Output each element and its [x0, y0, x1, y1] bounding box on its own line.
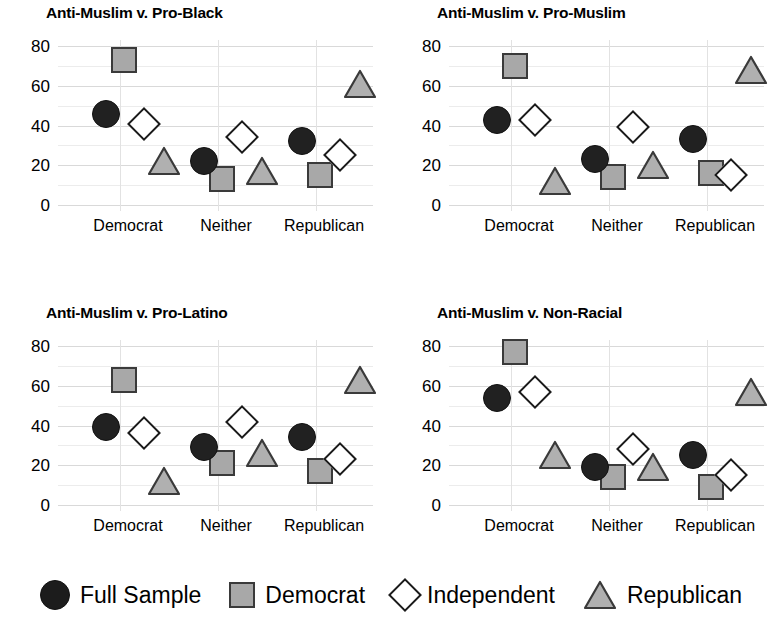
- gridline-minor: [449, 66, 764, 67]
- y-axis-tick-label: 20: [31, 157, 50, 174]
- y-axis-tick-label: 80: [31, 38, 50, 55]
- chart-panel: Anti-Muslim v. Non-Racial020406080Democr…: [391, 300, 782, 580]
- gridline-minor: [58, 485, 373, 486]
- marker-independent-diamond: [225, 405, 259, 439]
- gridline-major: [58, 205, 373, 206]
- marker-full-sample-circle: [679, 125, 707, 153]
- legend-label: Democrat: [265, 582, 365, 609]
- gridline-major: [58, 346, 373, 347]
- x-axis-tick-label: Neither: [200, 518, 252, 534]
- y-axis-tick-label: 60: [422, 377, 441, 394]
- gridline-minor: [449, 445, 764, 446]
- x-axis-tick-label: Republican: [284, 218, 364, 234]
- y-axis-tick-label: 80: [422, 38, 441, 55]
- y-axis-tick-label: 40: [422, 117, 441, 134]
- y-axis-tick-label: 80: [422, 338, 441, 355]
- chart-panel: Anti-Muslim v. Pro-Latino020406080Democr…: [0, 300, 391, 580]
- panel-title: Anti-Muslim v. Pro-Latino: [46, 304, 228, 322]
- marker-democrat-square: [502, 339, 528, 365]
- x-axis-tick-label: Neither: [200, 218, 252, 234]
- gridline-major: [58, 386, 373, 387]
- panel-title: Anti-Muslim v. Pro-Muslim: [437, 4, 625, 22]
- x-axis-tick-label: Republican: [284, 518, 364, 534]
- gridline-major: [449, 505, 764, 506]
- y-axis-tick-label: 20: [31, 457, 50, 474]
- gridline-minor: [58, 406, 373, 407]
- marker-full-sample-circle: [483, 384, 511, 412]
- gridline-major: [449, 346, 764, 347]
- marker-republican-triangle: [343, 365, 377, 395]
- marker-republican-triangle: [734, 55, 768, 85]
- y-axis-tick-label: 40: [31, 117, 50, 134]
- category-gridline: [120, 340, 121, 511]
- plot-area: 020406080DemocratNeitherRepublican: [58, 46, 373, 205]
- legend-item: Democrat: [229, 582, 365, 609]
- gridline-major: [449, 426, 764, 427]
- panel-title: Anti-Muslim v. Pro-Black: [46, 4, 223, 22]
- marker-independent-diamond: [127, 107, 161, 141]
- gridline-major: [58, 505, 373, 506]
- panel-title: Anti-Muslim v. Non-Racial: [437, 304, 622, 322]
- marker-republican-triangle: [538, 166, 572, 196]
- y-axis-tick-label: 60: [31, 377, 50, 394]
- marker-full-sample-circle: [581, 145, 609, 173]
- y-axis-tick-label: 80: [31, 338, 50, 355]
- marker-republican-triangle: [538, 440, 572, 470]
- legend-label: Republican: [627, 582, 742, 609]
- x-axis-tick-label: Democrat: [484, 518, 553, 534]
- y-axis-tick-label: 0: [41, 497, 50, 514]
- marker-republican-triangle: [636, 150, 670, 180]
- marker-independent-diamond: [518, 375, 552, 409]
- gridline-major: [449, 86, 764, 87]
- marker-independent-diamond: [616, 111, 650, 145]
- x-axis-tick-label: Democrat: [93, 218, 162, 234]
- category-gridline: [316, 340, 317, 511]
- x-axis-tick-label: Neither: [591, 518, 643, 534]
- plot-area: 020406080DemocratNeitherRepublican: [58, 346, 373, 505]
- gridline-major: [58, 46, 373, 47]
- legend-circle-icon: [40, 580, 70, 610]
- marker-republican-triangle: [147, 146, 181, 176]
- y-axis-tick-label: 20: [422, 457, 441, 474]
- chart-legend: Full SampleDemocratIndependentRepublican: [0, 565, 782, 625]
- marker-full-sample-circle: [190, 147, 218, 175]
- y-axis-tick-label: 40: [31, 417, 50, 434]
- y-axis-tick-label: 0: [41, 197, 50, 214]
- marker-full-sample-circle: [92, 413, 120, 441]
- gridline-minor: [58, 66, 373, 67]
- gridline-major: [449, 46, 764, 47]
- legend-diamond-icon: [388, 578, 422, 612]
- chart-figure: Anti-Muslim v. Pro-Black020406080Democra…: [0, 0, 782, 625]
- marker-democrat-square: [111, 367, 137, 393]
- gridline-minor: [58, 145, 373, 146]
- marker-full-sample-circle: [288, 423, 316, 451]
- gridline-minor: [449, 145, 764, 146]
- marker-republican-triangle: [147, 466, 181, 496]
- plot-area: 020406080DemocratNeitherRepublican: [449, 346, 764, 505]
- legend-label: Independent: [427, 582, 555, 609]
- x-axis-tick-label: Neither: [591, 218, 643, 234]
- legend-label: Full Sample: [80, 582, 201, 609]
- gridline-major: [58, 86, 373, 87]
- x-axis-tick-label: Democrat: [484, 218, 553, 234]
- y-axis-tick-label: 60: [31, 77, 50, 94]
- chart-panel: Anti-Muslim v. Pro-Black020406080Democra…: [0, 0, 391, 280]
- legend-square-icon: [229, 582, 255, 608]
- legend-triangle-icon: [583, 580, 617, 610]
- y-axis-tick-label: 40: [422, 417, 441, 434]
- marker-republican-triangle: [734, 377, 768, 407]
- marker-full-sample-circle: [190, 433, 218, 461]
- gridline-minor: [58, 366, 373, 367]
- marker-full-sample-circle: [288, 127, 316, 155]
- y-axis-tick-label: 20: [422, 157, 441, 174]
- marker-full-sample-circle: [92, 100, 120, 128]
- y-axis-tick-label: 60: [422, 77, 441, 94]
- marker-full-sample-circle: [483, 106, 511, 134]
- chart-panel: Anti-Muslim v. Pro-Muslim020406080Democr…: [391, 0, 782, 280]
- marker-independent-diamond: [518, 103, 552, 137]
- marker-full-sample-circle: [679, 441, 707, 469]
- gridline-minor: [449, 366, 764, 367]
- marker-republican-triangle: [343, 69, 377, 99]
- legend-item: Full Sample: [40, 580, 201, 610]
- x-axis-tick-label: Republican: [675, 518, 755, 534]
